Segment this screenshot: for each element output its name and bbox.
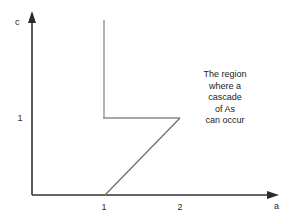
x-axis-tick-label-2: 2 [175,202,185,212]
y-axis-tick-label-1: 1 [15,113,25,123]
x-axis-tick-label-1: 1 [99,202,109,212]
annotation-line-5: can occur [188,115,262,127]
annotation-line-1: The region [188,69,262,81]
y-axis-arrowhead [28,11,36,23]
annotation-line-4: of As [188,104,262,116]
annotation-line-2: where a [188,81,262,93]
x-axis-label: a [274,201,279,211]
annotation-line-3: cascade [188,92,262,104]
y-axis-label: c [15,17,20,27]
region-boundary-diagonal [105,118,180,195]
cascade-region-figure: c a 1 1 2 The region where a cascade of … [0,0,295,224]
region-annotation: The region where a cascade of As can occ… [188,69,262,127]
x-axis-arrowhead [267,191,279,199]
